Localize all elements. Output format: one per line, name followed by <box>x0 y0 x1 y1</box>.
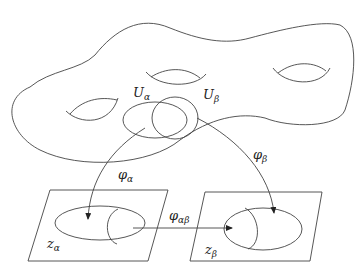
diagram-drawing <box>0 0 360 266</box>
label-u-beta: Uβ <box>203 88 219 104</box>
phi-beta-arrow <box>197 118 274 213</box>
manifold-chart-diagram: Uα Uβ φα φβ φαβ zα zβ <box>0 0 360 266</box>
manifold-surface <box>12 23 354 162</box>
hole-right <box>273 64 330 82</box>
chart-region-beta <box>224 208 302 250</box>
label-u-alpha: Uα <box>133 86 150 102</box>
region-u-beta <box>152 97 198 139</box>
hole-left <box>66 98 118 120</box>
chart-region-alpha <box>55 206 145 240</box>
hole-center <box>146 70 206 85</box>
label-phi-alpha: φα <box>118 168 133 184</box>
label-z-beta: zβ <box>205 243 217 259</box>
label-phi-alphabeta: φαβ <box>169 209 189 225</box>
phi-alpha-arrow <box>88 128 145 219</box>
label-phi-beta: φβ <box>253 148 267 164</box>
label-z-alpha: zα <box>47 237 60 253</box>
